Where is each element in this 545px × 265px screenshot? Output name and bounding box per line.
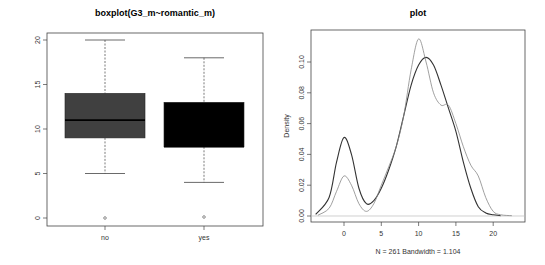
x-tick-label: 15 xyxy=(452,230,460,237)
y-tick-label: 0.00 xyxy=(298,209,305,223)
outlier-point xyxy=(104,217,107,220)
boxplot-panel: boxplot(G3_m~romantic_m) 05101520 noyes xyxy=(34,8,263,242)
y-tick-label: 10 xyxy=(34,125,41,133)
boxplot-boxes xyxy=(65,40,244,219)
x-tick-label: no xyxy=(101,234,109,241)
box-no xyxy=(65,40,145,219)
density-dark-curve xyxy=(316,57,501,215)
density-title: plot xyxy=(410,8,427,18)
density-light-curve xyxy=(318,39,512,216)
y-tick-label: 0.10 xyxy=(298,55,305,69)
y-tick-label: 0 xyxy=(34,216,41,220)
density-x-axis: 05101520 xyxy=(342,222,497,237)
y-tick-label: 5 xyxy=(34,171,41,175)
boxplot-x-axis: noyes xyxy=(101,226,210,242)
boxplot-title: boxplot(G3_m~romantic_m) xyxy=(95,8,215,18)
y-tick-label: 0.08 xyxy=(298,86,305,100)
density-curves xyxy=(316,39,512,216)
density-xlabel: N = 261 Bandwidth = 1.104 xyxy=(376,248,461,255)
y-tick-label: 20 xyxy=(34,36,41,44)
iqr-box xyxy=(65,93,145,137)
outlier-point xyxy=(203,216,206,219)
y-tick-label: 15 xyxy=(34,81,41,89)
box-yes xyxy=(164,58,244,219)
x-tick-label: 0 xyxy=(342,230,346,237)
density-panel: plot 0.000.020.040.060.080.10 05101520 D… xyxy=(283,8,525,255)
chart-canvas: boxplot(G3_m~romantic_m) 05101520 noyes … xyxy=(0,0,545,265)
y-tick-label: 0.06 xyxy=(298,117,305,131)
y-tick-label: 0.02 xyxy=(298,178,305,192)
x-tick-label: 10 xyxy=(415,230,423,237)
density-y-axis: 0.000.020.040.060.080.10 xyxy=(298,55,311,223)
density-frame xyxy=(311,30,525,222)
density-ylabel: Density xyxy=(283,114,291,138)
x-tick-label: 20 xyxy=(489,230,497,237)
x-tick-label: 5 xyxy=(379,230,383,237)
iqr-box xyxy=(164,102,244,147)
x-tick-label: yes xyxy=(199,234,210,242)
y-tick-label: 0.04 xyxy=(298,147,305,161)
boxplot-y-axis: 05101520 xyxy=(34,36,47,220)
